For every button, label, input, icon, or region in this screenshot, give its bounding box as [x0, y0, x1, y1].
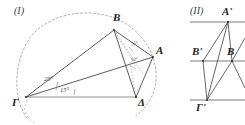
segment-bprime-gammaprime — [203, 61, 207, 100]
vertex-dot-bprime — [202, 60, 204, 62]
segment-b-gammaprime — [207, 61, 232, 100]
figure-2-caption: (II) — [190, 6, 203, 16]
point-label-delta: Δ — [138, 97, 145, 108]
segment-b-right-lower — [232, 61, 245, 88]
angle-label-gamma-inner: 15° — [60, 87, 69, 94]
figure-1-graphic — [0, 0, 245, 125]
angle-label-gamma-outer: 20° — [44, 76, 53, 83]
vertex-dot-delta — [135, 96, 137, 98]
point-label-gamma: Γ — [12, 97, 19, 108]
point-label-b: B — [113, 12, 120, 23]
figure-sheet: (I) B A Γ Δ 20° 15° 35° 50° (II) A' B' B… — [0, 0, 245, 125]
vertex-dot-b2 — [231, 60, 233, 62]
dashed-arc-tail — [25, 100, 36, 124]
point-label-aprime: A' — [222, 6, 232, 17]
vertex-dot-a — [152, 56, 154, 58]
vertex-dot-aprime — [227, 21, 229, 23]
segment-gamma-b — [26, 30, 114, 97]
vertex-dot-gamma — [25, 96, 27, 98]
figure-1-caption: (I) — [14, 6, 24, 16]
point-label-gammaprime: Γ' — [196, 102, 206, 113]
vertex-dot-gammaprime — [206, 99, 208, 101]
dashed-circle-arc — [17, 13, 156, 118]
point-label-b2: B — [227, 46, 234, 57]
point-label-a: A — [156, 45, 163, 56]
point-label-bprime: B' — [192, 46, 202, 57]
vertex-dot-b — [113, 29, 115, 31]
angle-label-b-lower: 50° — [131, 57, 139, 63]
segment-aprime-bprime — [203, 22, 228, 61]
segment-a-delta — [136, 57, 153, 97]
angle-arc-b-upper — [129, 47, 133, 52]
angle-arc-gamma-outer — [56, 82, 58, 90]
angle-arc-gamma-inner — [74, 89, 75, 95]
